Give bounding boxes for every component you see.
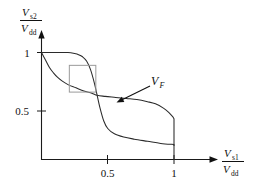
x-axis-ticks: 0.5 1 [101,155,177,179]
y-ticklabel-1: 1 [24,47,30,59]
x-axis-label: V s1 V dd [222,147,244,178]
plot-svg: V s2 V dd V s1 V dd 1 0.5 [0,0,260,192]
noise-margin-square [69,65,96,92]
x-axis-numerator-subscript: s1 [232,153,239,162]
x-axis-denominator-subscript: dd [231,169,239,178]
curves-group [42,52,175,159]
vtc-curve-inverter-1 [42,52,175,159]
y-axis-denominator: V [21,22,29,34]
x-ticklabel-1: 1 [171,167,177,179]
y-ticklabel-0point5: 0.5 [15,105,29,117]
y-axis-arrowhead [38,30,44,39]
vf-label-subscript: F [159,81,165,90]
vtc-curve-inverter-2 [42,53,175,146]
x-axis-numerator: V [224,147,232,159]
y-axis-numerator-subscript: s2 [30,12,37,21]
x-ticklabel-0point5: 0.5 [101,167,115,179]
y-axis-denominator-subscript: dd [29,28,37,37]
y-axis-label: V s2 V dd [20,6,42,37]
vf-arrow-line [121,86,151,101]
x-axis-arrowhead [210,156,219,162]
x-axis-denominator: V [223,163,231,175]
y-axis-numerator: V [22,6,30,18]
butterfly-curve-figure: V s2 V dd V s1 V dd 1 0.5 [0,0,260,192]
